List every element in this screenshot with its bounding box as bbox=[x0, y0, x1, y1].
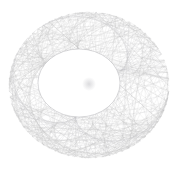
envelope-disc bbox=[38, 49, 120, 117]
center-blob bbox=[82, 77, 96, 91]
string-art-figure bbox=[0, 0, 178, 170]
center-blob-group bbox=[82, 77, 96, 91]
envelope-circle-group bbox=[38, 49, 120, 117]
string-art-canvas bbox=[0, 0, 178, 170]
